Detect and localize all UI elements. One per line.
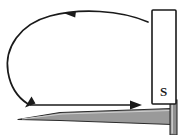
nail-head-highlight xyxy=(171,102,173,134)
diagram-canvas: S xyxy=(0,0,193,135)
nail-head xyxy=(170,100,177,135)
magnet-pole-label: S xyxy=(160,84,167,99)
magnet-nail-diagram: S xyxy=(0,0,193,135)
bar-magnet-icon: S xyxy=(152,10,176,104)
